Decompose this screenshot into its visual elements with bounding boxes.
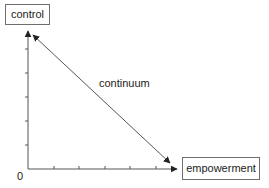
continuum-double-arrow (33, 35, 170, 163)
continuum-label: continuum (99, 77, 150, 89)
control-label: control (11, 8, 44, 20)
empowerment-label: empowerment (186, 162, 256, 174)
control-label-box: control (5, 4, 50, 25)
control-empowerment-diagram: control empowerment continuum 0 (0, 0, 269, 188)
origin-label: 0 (17, 170, 23, 182)
empowerment-label-box: empowerment (182, 157, 260, 180)
